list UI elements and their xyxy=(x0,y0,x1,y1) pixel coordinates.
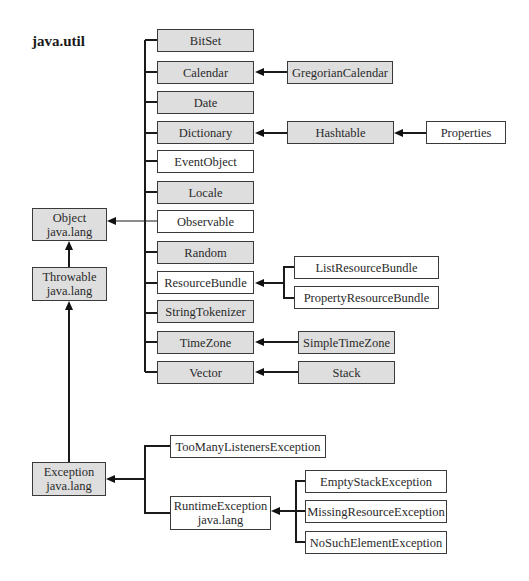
node-exception-package: java.lang xyxy=(46,479,91,493)
node-missingresourceexception[interactable]: MissingResourceException xyxy=(305,500,447,523)
node-observable[interactable]: Observable xyxy=(157,210,254,233)
node-stringtokenizer[interactable]: StringTokenizer xyxy=(157,300,254,323)
node-toomanylistenersexception[interactable]: TooManyListenersException xyxy=(170,435,326,458)
node-emptystackexception[interactable]: EmptyStackException xyxy=(305,470,447,493)
node-listresourcebundle[interactable]: ListResourceBundle xyxy=(294,256,439,279)
node-locale[interactable]: Locale xyxy=(157,181,254,204)
node-bitset[interactable]: BitSet xyxy=(157,29,254,52)
node-object-label: Object xyxy=(53,211,86,225)
node-propertyresourcebundle[interactable]: PropertyResourceBundle xyxy=(294,286,439,309)
node-dictionary[interactable]: Dictionary xyxy=(157,121,254,144)
node-hashtable[interactable]: Hashtable xyxy=(287,121,394,144)
node-simpletimezone[interactable]: SimpleTimeZone xyxy=(298,331,395,354)
node-timezone[interactable]: TimeZone xyxy=(157,331,254,354)
node-throwable[interactable]: Throwable java.lang xyxy=(32,267,107,301)
node-gregoriancalendar[interactable]: GregorianCalendar xyxy=(287,61,393,84)
node-runtimeexception[interactable]: RuntimeException java.lang xyxy=(170,496,271,530)
package-title: java.util xyxy=(32,33,85,50)
node-date[interactable]: Date xyxy=(157,91,254,114)
node-calendar[interactable]: Calendar xyxy=(157,61,254,84)
node-throwable-package: java.lang xyxy=(47,284,92,298)
node-runtimeexception-label: RuntimeException xyxy=(174,499,268,513)
class-hierarchy-diagram: java.util Object java.lang Throwable jav… xyxy=(0,0,529,581)
node-object-package: java.lang xyxy=(47,225,92,239)
node-random[interactable]: Random xyxy=(157,241,254,264)
node-exception[interactable]: Exception java.lang xyxy=(32,462,106,496)
node-vector[interactable]: Vector xyxy=(157,361,254,384)
node-stack[interactable]: Stack xyxy=(298,361,395,384)
node-object[interactable]: Object java.lang xyxy=(32,208,107,241)
node-properties[interactable]: Properties xyxy=(426,121,506,144)
node-resourcebundle[interactable]: ResourceBundle xyxy=(157,271,254,294)
node-throwable-label: Throwable xyxy=(42,270,96,284)
node-eventobject[interactable]: EventObject xyxy=(157,150,254,173)
node-runtimeexception-package: java.lang xyxy=(198,513,243,527)
node-nosuchelementexception[interactable]: NoSuchElementException xyxy=(305,531,447,554)
node-exception-label: Exception xyxy=(44,465,95,479)
